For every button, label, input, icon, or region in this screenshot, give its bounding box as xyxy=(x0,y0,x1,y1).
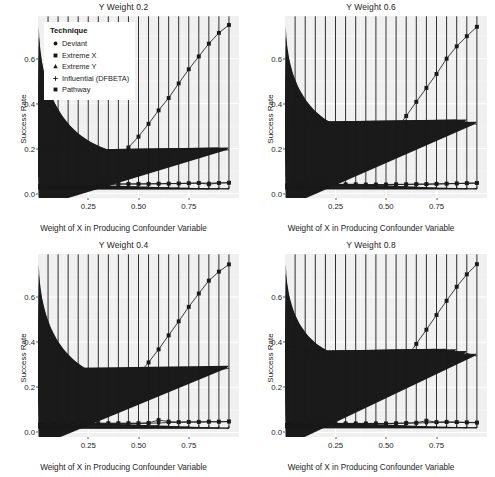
plot-area: 0.00.20.40.60.250.500.75 xyxy=(285,254,487,437)
y-tick-mark xyxy=(283,103,285,104)
legend-item[interactable]: Deviant xyxy=(49,38,129,50)
x-tick-label: 0.50 xyxy=(131,202,146,211)
x-tick-mark xyxy=(386,437,387,439)
panel-title: Y Weight 0.2 xyxy=(0,2,247,12)
triangle-filled-icon xyxy=(49,61,62,72)
y-tick-mark xyxy=(36,193,38,194)
y-tick-mark xyxy=(36,103,38,104)
x-tick-label: 0.75 xyxy=(181,202,196,211)
y-tick-mark xyxy=(283,342,285,343)
y-tick-mark xyxy=(36,148,38,149)
y-tick-label: 0.6 xyxy=(271,54,282,63)
y-tick-label: 0.4 xyxy=(271,338,282,347)
legend: TechniqueDeviantExtreme XExtreme YInflue… xyxy=(44,22,135,100)
y-tick-label: 0.2 xyxy=(24,144,35,153)
y-tick-mark xyxy=(283,193,285,194)
x-tick-mark xyxy=(188,198,189,200)
plot-area: 0.00.20.40.60.250.500.75 xyxy=(38,254,239,437)
x-axis-label: Weight of X in Producing Confounder Vari… xyxy=(0,463,247,472)
y-tick-mark xyxy=(283,432,285,433)
x-tick-label: 0.25 xyxy=(81,202,96,211)
y-tick-label: 0.6 xyxy=(24,54,35,63)
x-axis-label: Weight of X in Producing Confounder Vari… xyxy=(0,224,247,233)
legend-item[interactable]: Extreme X xyxy=(49,50,129,62)
x-tick-mark xyxy=(188,437,189,439)
x-tick-mark xyxy=(138,437,139,439)
y-tick-mark xyxy=(36,387,38,388)
y-tick-label: 0.6 xyxy=(24,292,35,301)
y-tick-mark xyxy=(36,58,38,59)
x-tick-mark xyxy=(138,198,139,200)
y-tick-label: 0.4 xyxy=(24,99,35,108)
panel-title: Y Weight 0.6 xyxy=(247,2,495,12)
x-tick-label: 0.25 xyxy=(81,441,96,450)
plot-area: 0.00.20.40.60.250.500.75 xyxy=(285,16,487,198)
y-tick-label: 0.2 xyxy=(24,383,35,392)
legend-item[interactable]: Pathway xyxy=(49,84,129,96)
x-tick-label: 0.75 xyxy=(181,441,196,450)
legend-item-label: Influential (DFBETA) xyxy=(62,73,129,85)
y-tick-mark xyxy=(36,432,38,433)
x-tick-label: 0.75 xyxy=(429,441,444,450)
chart-panel: Y Weight 0.8Success RateWeight of X in P… xyxy=(247,238,495,477)
legend-item-label: Deviant xyxy=(62,38,87,50)
figure-panel-grid: Y Weight 0.2Success RateWeight of X in P… xyxy=(0,0,495,477)
circle-filled-icon xyxy=(49,38,62,49)
x-tick-label: 0.50 xyxy=(378,202,393,211)
x-tick-label: 0.75 xyxy=(429,202,444,211)
square-filled-icon xyxy=(49,84,62,95)
legend-item-label: Pathway xyxy=(62,84,90,96)
x-tick-mark xyxy=(88,437,89,439)
y-tick-label: 0.0 xyxy=(271,189,282,198)
panel-title: Y Weight 0.8 xyxy=(247,240,495,250)
x-tick-mark xyxy=(436,437,437,439)
y-tick-mark xyxy=(36,296,38,297)
chart-panel: Y Weight 0.2Success RateWeight of X in P… xyxy=(0,0,247,238)
y-tick-label: 0.0 xyxy=(271,428,282,437)
x-axis-label: Weight of X in Producing Confounder Vari… xyxy=(247,463,495,472)
square-filled-icon xyxy=(49,50,62,61)
legend-item-label: Extreme Y xyxy=(62,61,96,73)
y-tick-mark xyxy=(36,342,38,343)
panel-title: Y Weight 0.4 xyxy=(0,240,247,250)
chart-panel: Y Weight 0.6Success RateWeight of X in P… xyxy=(247,0,495,238)
y-tick-mark xyxy=(283,296,285,297)
x-axis-label: Weight of X in Producing Confounder Vari… xyxy=(247,224,495,233)
x-tick-mark xyxy=(386,198,387,200)
y-tick-label: 0.0 xyxy=(24,428,35,437)
y-tick-mark xyxy=(283,148,285,149)
plus-icon xyxy=(49,73,62,84)
y-tick-label: 0.0 xyxy=(24,189,35,198)
y-tick-label: 0.4 xyxy=(271,99,282,108)
y-tick-label: 0.2 xyxy=(271,144,282,153)
x-tick-label: 0.25 xyxy=(328,441,343,450)
legend-item-label: Extreme X xyxy=(62,50,97,62)
y-tick-label: 0.2 xyxy=(271,383,282,392)
y-tick-label: 0.6 xyxy=(271,292,282,301)
y-tick-label: 0.4 xyxy=(24,338,35,347)
legend-item[interactable]: Influential (DFBETA) xyxy=(49,73,129,85)
y-tick-mark xyxy=(283,387,285,388)
x-tick-label: 0.50 xyxy=(378,441,393,450)
x-tick-label: 0.25 xyxy=(328,202,343,211)
x-tick-label: 0.50 xyxy=(131,441,146,450)
legend-item[interactable]: Extreme Y xyxy=(49,61,129,73)
plot-area: 0.00.20.40.60.250.500.75TechniqueDeviant… xyxy=(38,16,239,198)
y-tick-mark xyxy=(283,58,285,59)
x-tick-mark xyxy=(335,198,336,200)
legend-title: Technique xyxy=(50,26,129,35)
x-tick-mark xyxy=(335,437,336,439)
x-tick-mark xyxy=(88,198,89,200)
chart-panel: Y Weight 0.4Success RateWeight of X in P… xyxy=(0,238,247,477)
x-tick-mark xyxy=(436,198,437,200)
